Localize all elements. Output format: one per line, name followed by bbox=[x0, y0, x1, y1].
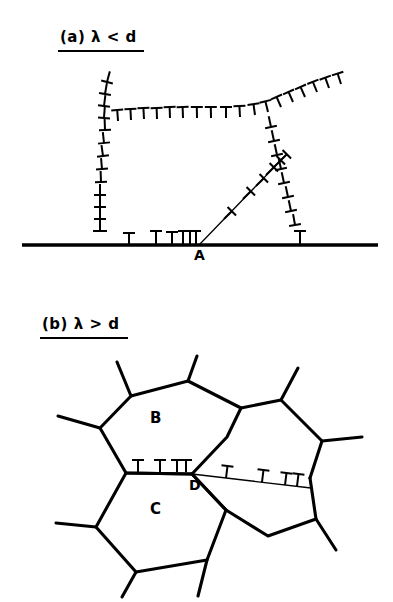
boundary-B-C bbox=[126, 473, 192, 474]
left-boundary-dislocation-chain bbox=[93, 70, 116, 231]
grain-right-upper-outline bbox=[241, 400, 322, 478]
spur-bot-right bbox=[198, 560, 207, 596]
spur-left-low bbox=[56, 523, 96, 527]
spur-right-top bbox=[281, 368, 298, 400]
upper-horizontal-dislocation-chain bbox=[111, 100, 274, 122]
spur-top-left bbox=[117, 362, 131, 396]
panel-b-graphics bbox=[56, 356, 362, 597]
spur-right-mid bbox=[322, 437, 362, 441]
spur-bot-left bbox=[122, 572, 136, 597]
grain-B-outline bbox=[100, 381, 241, 474]
spur-top-mid bbox=[188, 356, 197, 381]
diagram-svg bbox=[0, 0, 393, 602]
thin-boundary-right-of-D bbox=[192, 474, 311, 488]
spur-left-up bbox=[58, 416, 100, 428]
boundary-B-C-dislocation-row bbox=[132, 460, 192, 472]
panel-a-graphics bbox=[22, 70, 378, 245]
boundary-D-to-lower-right bbox=[192, 474, 226, 510]
upper-right-branch-dislocation-chain bbox=[271, 72, 347, 110]
thin-boundary-dislocation-row bbox=[220, 465, 304, 486]
figure-container: (a) λ < d (b) λ > d B C D A bbox=[0, 0, 393, 602]
spur-right-low bbox=[316, 519, 336, 550]
baseline-dislocation-row bbox=[123, 231, 306, 244]
right-boundary-dislocation-chain bbox=[263, 115, 301, 226]
